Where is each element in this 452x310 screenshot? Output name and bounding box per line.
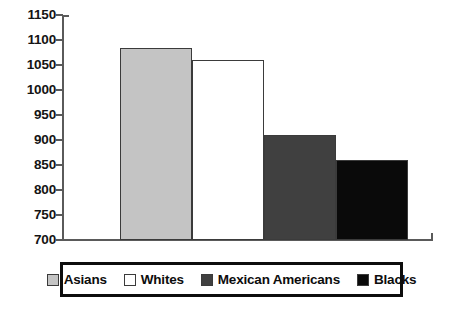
y-axis-tick-label: 700	[34, 233, 56, 247]
y-axis-tick-label: 800	[34, 183, 56, 197]
legend-swatch-icon	[201, 274, 213, 286]
bar-chart: 7007508008509009501000105011001150 Asian…	[0, 0, 452, 310]
legend: AsiansWhitesMexican AmericansBlacks	[60, 262, 403, 297]
y-axis-tick-label: 1100	[28, 33, 57, 47]
y-axis-tick-label: 1000	[27, 83, 56, 97]
legend-label: Blacks	[374, 273, 416, 287]
y-axis-tick-label: 850	[34, 158, 56, 172]
legend-item: Mexican Americans	[201, 273, 340, 287]
legend-label: Mexican Americans	[218, 273, 340, 287]
legend-swatch-icon	[357, 274, 369, 286]
legend-label: Whites	[141, 273, 184, 287]
y-axis-tick-label: 750	[34, 208, 56, 222]
y-axis-tick-label: 1150	[28, 8, 57, 22]
legend-swatch-icon	[124, 274, 136, 286]
legend-swatch-icon	[47, 274, 59, 286]
legend-label: Asians	[64, 273, 107, 287]
bar-blacks	[336, 160, 408, 240]
legend-item: Whites	[124, 273, 184, 287]
bar-whites	[192, 60, 264, 240]
legend-item: Asians	[47, 273, 107, 287]
plot-area	[62, 15, 432, 240]
bar-asians	[120, 48, 192, 241]
y-axis-tick-label: 1050	[27, 58, 56, 72]
y-axis-tick-label: 950	[34, 108, 56, 122]
legend-items: AsiansWhitesMexican AmericansBlacks	[63, 265, 400, 294]
y-axis-tick-label: 900	[34, 133, 56, 147]
legend-item: Blacks	[357, 273, 416, 287]
bar-mexican-americans	[264, 135, 336, 240]
